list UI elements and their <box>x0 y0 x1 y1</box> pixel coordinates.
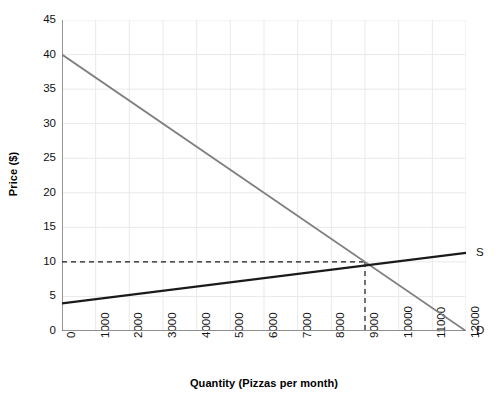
plot-area <box>62 20 466 331</box>
supply-demand-chart: Price ($) Quantity (Pizzas per month) 05… <box>0 0 495 406</box>
series-label-supply: S <box>476 247 484 259</box>
y-axis-title: Price ($) <box>7 139 19 209</box>
y-tick-label: 0 <box>30 325 56 337</box>
y-tick-label: 40 <box>30 49 56 61</box>
series-label-demand: D <box>476 325 484 337</box>
y-tick-label: 45 <box>30 14 56 26</box>
y-tick-label: 10 <box>30 256 56 268</box>
x-tick-label: 0 <box>66 332 78 338</box>
y-tick-label: 15 <box>30 221 56 233</box>
y-tick-label: 35 <box>30 83 56 95</box>
y-axis-tick-labels: 051015202530354045 <box>28 0 56 406</box>
gridlines <box>62 20 466 331</box>
x-axis-title: Quantity (Pizzas per month) <box>62 377 466 389</box>
y-tick-label: 25 <box>30 152 56 164</box>
y-tick-label: 5 <box>30 290 56 302</box>
y-tick-label: 20 <box>30 187 56 199</box>
y-tick-label: 30 <box>30 118 56 130</box>
